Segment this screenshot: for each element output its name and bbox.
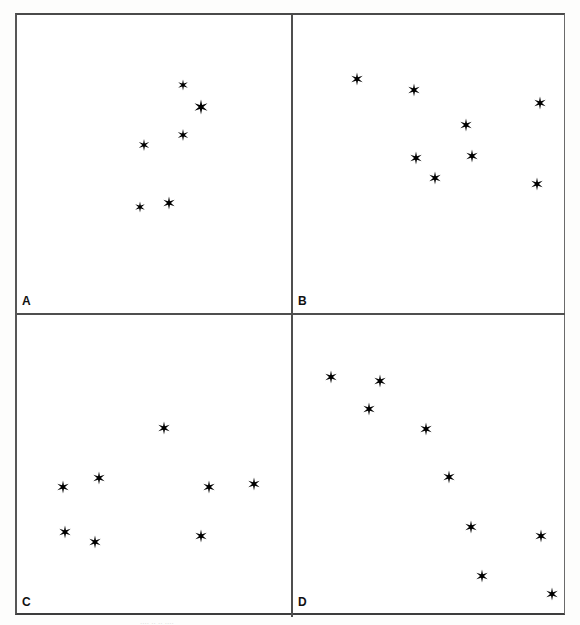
- six-pointed-star-icon: [195, 530, 208, 543]
- panel-c: C: [17, 315, 291, 615]
- panel-b: B: [293, 15, 565, 313]
- six-pointed-star-icon: [194, 100, 209, 115]
- caption-remnant-text: .... .. .. ....: [140, 616, 360, 624]
- six-pointed-star-icon: [443, 471, 456, 484]
- six-pointed-star-icon: [476, 570, 489, 583]
- six-pointed-star-icon: [410, 152, 423, 165]
- six-pointed-star-icon: [408, 84, 421, 97]
- panel-label-a: A: [22, 295, 31, 307]
- panel-label-b: B: [298, 295, 307, 307]
- six-pointed-star-icon: [158, 422, 171, 435]
- six-pointed-star-icon: [135, 202, 146, 213]
- figure-frame: A B C D: [15, 13, 565, 615]
- six-pointed-star-icon: [59, 526, 72, 539]
- six-pointed-star-icon: [163, 197, 176, 210]
- six-pointed-star-icon: [138, 139, 150, 151]
- six-pointed-star-icon: [534, 97, 547, 110]
- panel-label-d: D: [298, 596, 307, 608]
- six-pointed-star-icon: [351, 73, 364, 86]
- six-pointed-star-icon: [248, 478, 261, 491]
- six-pointed-star-icon: [89, 536, 102, 549]
- six-pointed-star-icon: [535, 530, 548, 543]
- six-pointed-star-icon: [363, 403, 376, 416]
- six-pointed-star-icon: [546, 588, 559, 601]
- six-pointed-star-icon: [57, 481, 70, 494]
- six-pointed-star-icon: [178, 80, 189, 91]
- six-pointed-star-icon: [466, 150, 479, 163]
- six-pointed-star-icon: [93, 472, 106, 485]
- six-pointed-star-icon: [460, 119, 473, 132]
- six-pointed-star-icon: [177, 129, 189, 141]
- six-pointed-star-icon: [203, 481, 216, 494]
- six-pointed-star-icon: [374, 375, 387, 388]
- six-pointed-star-icon: [325, 371, 338, 384]
- six-pointed-star-icon: [531, 178, 544, 191]
- figure-page: A B C D .... .. .. ....: [0, 0, 580, 625]
- panel-a: A: [17, 15, 291, 313]
- six-pointed-star-icon: [420, 423, 433, 436]
- six-pointed-star-icon: [465, 521, 478, 534]
- six-pointed-star-icon: [429, 172, 442, 185]
- panel-label-c: C: [22, 596, 31, 608]
- panel-d: D: [293, 315, 565, 615]
